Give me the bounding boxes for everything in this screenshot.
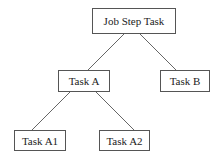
- node-job-step-task: Job Step Task: [92, 8, 176, 34]
- node-task-a: Task A: [58, 70, 110, 92]
- task-hierarchy-diagram: Job Step Task Task A Task B Task A1 Task…: [0, 0, 224, 163]
- edge-task-a-to-task-a1: [32, 92, 70, 130]
- node-label: Job Step Task: [104, 15, 165, 27]
- node-label: Task A1: [22, 135, 58, 147]
- node-label: Task A: [69, 75, 100, 87]
- edge-task-a-to-task-a2: [96, 92, 134, 130]
- node-label: Task B: [170, 75, 201, 87]
- node-task-a1: Task A1: [14, 130, 66, 151]
- node-label: Task A2: [106, 135, 142, 147]
- node-task-b: Task B: [160, 70, 210, 92]
- edge-root-to-task-a: [88, 34, 124, 70]
- node-task-a2: Task A2: [99, 130, 150, 151]
- edge-root-to-task-b: [140, 34, 176, 70]
